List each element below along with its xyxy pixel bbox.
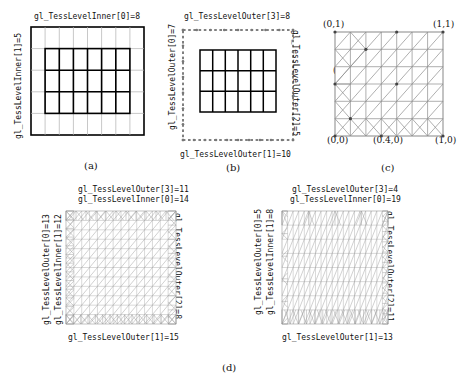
panel-d-left: gl_TessLevelOuter[3]=11 gl_TessLevelInne… <box>30 185 215 370</box>
panel-c-label-1-1: (1,1) <box>433 20 454 29</box>
panel-a: gl_TessLevelInner[0]=8 gl_TessLevelInner… <box>0 0 160 160</box>
panel-a-mesh <box>30 26 150 138</box>
panel-a-top-label: gl_TessLevelInner[0]=8 <box>34 12 140 21</box>
panel-d-left-bottom-label: gl_TessLevelOuter[1]=15 <box>68 333 179 342</box>
panel-b-left-label: gl_TessLevelOuter[0]=7 <box>168 24 177 130</box>
panel-d-caption: (d) <box>222 362 236 373</box>
panel-b: gl_TessLevelOuter[3]=8 gl_TessLevelOuter… <box>160 0 315 165</box>
panel-b-bottom-label: gl_TessLevelOuter[1]=10 <box>180 150 291 159</box>
panel-d-right: gl_TessLevelOuter[3]=4 gl_TessLevelInner… <box>248 185 458 370</box>
panel-a-left-label: gl_TessLevelInner[1]=5 <box>14 33 23 139</box>
panel-d-left-left-label-2: gl_TessLevelInner[1]=12 <box>54 214 63 325</box>
panel-d-left-left-label-1: gl_TessLevelOuter[0]=13 <box>42 214 51 325</box>
panel-d-left-top-label-2: gl_TessLevelInner[0]=14 <box>78 195 189 204</box>
panel-d-right-top-label-1: gl_TessLevelOuter[3]=4 <box>292 185 398 194</box>
panel-a-caption: (a) <box>84 160 98 171</box>
panel-b-top-label: gl_TessLevelOuter[3]=8 <box>184 12 290 21</box>
panel-d-left-top-label-1: gl_TessLevelOuter[3]=11 <box>78 185 189 194</box>
panel-d-right-bottom-label: gl_TessLevelOuter[1]=13 <box>282 333 393 342</box>
panel-b-mesh <box>178 25 303 145</box>
panel-d-right-left-label-1: gl_TessLevelOuter[0]=5 <box>254 209 263 315</box>
panel-d-right-left-label-2: gl_TessLevelInner[1]=8 <box>266 209 275 315</box>
panel-c: (0,1) (1,1) (0,0) (1,0) (0.25,0.8) (0,0.… <box>315 0 471 165</box>
panel-d-right-top-label-2: gl_TessLevelInner[0]=19 <box>290 195 401 204</box>
panel-d-left-mesh <box>64 209 179 327</box>
panel-b-caption: (b) <box>226 162 240 173</box>
panel-c-label-0-1: (0,1) <box>323 20 344 29</box>
panel-c-mesh <box>333 30 453 142</box>
panel-d-right-mesh <box>280 209 392 327</box>
panel-c-caption: (c) <box>381 162 394 173</box>
